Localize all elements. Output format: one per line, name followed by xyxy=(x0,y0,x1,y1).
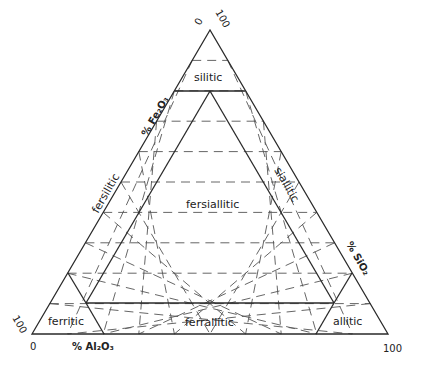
allitic-boundary-upper xyxy=(334,273,352,303)
region-label-ferritic: ferritic xyxy=(48,315,84,328)
axis-label-sio2: % SiO₂ xyxy=(344,240,372,278)
region-label-allitic: allitic xyxy=(333,315,362,328)
tick-top-0: 0 xyxy=(192,16,205,27)
tick-bottom-left-0: 0 xyxy=(30,341,36,352)
region-label-silitic: silitic xyxy=(194,71,222,84)
ferritic-boundary-right xyxy=(86,303,104,334)
grid-line xyxy=(85,243,281,334)
tick-bottom-right-100: 100 xyxy=(383,343,402,354)
axis-label-al2o3: % Al₂O₃ xyxy=(72,341,114,352)
allitic-boundary-left xyxy=(316,303,334,334)
axis-label-fe2o3: % Fe₂O₃ xyxy=(139,94,171,138)
tick-top-100: 100 xyxy=(213,8,232,30)
region-label-ferrallitic: ferrallitic xyxy=(185,316,234,329)
region-label-fersiallitic: fersiallitic xyxy=(186,198,239,211)
ferritic-boundary-upper xyxy=(68,273,86,303)
siallitic-boundary xyxy=(210,91,334,303)
tick-bottom-left-100: 100 xyxy=(10,313,29,335)
grid-line xyxy=(139,243,335,334)
ternary-diagram: silitic fersilitic fersiallitic sialliti… xyxy=(0,0,421,372)
